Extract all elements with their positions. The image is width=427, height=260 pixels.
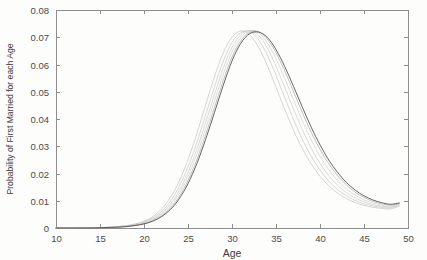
y-axis-tick-labels: 00.010.020.030.040.050.060.070.08	[31, 5, 50, 234]
x-tick-label: 15	[95, 233, 106, 244]
y-tick-label: 0.03	[31, 141, 50, 152]
figure-container: 101520253035404550 00.010.020.030.040.05…	[0, 0, 427, 260]
x-tick-label: 35	[271, 233, 282, 244]
y-tick-label: 0.01	[31, 196, 50, 207]
data-curve	[56, 32, 399, 228]
x-tick-label: 20	[139, 233, 150, 244]
y-tick-label: 0.07	[31, 32, 50, 43]
data-curve	[56, 31, 399, 228]
x-tick-label: 40	[315, 233, 326, 244]
x-tick-label: 45	[359, 233, 370, 244]
x-tick-label: 30	[227, 233, 238, 244]
y-tick-label: 0.04	[31, 114, 50, 125]
y-axis-title: Probability of First Married for each Ag…	[5, 43, 15, 194]
y-tick-label: 0	[44, 223, 49, 234]
data-curve	[56, 30, 399, 228]
y-tick-label: 0.05	[31, 87, 50, 98]
x-tick-label: 10	[51, 233, 62, 244]
x-tick-label: 50	[403, 233, 414, 244]
chart-canvas: 101520253035404550 00.010.020.030.040.05…	[0, 0, 427, 260]
y-tick-label: 0.06	[31, 60, 50, 71]
data-curve	[56, 31, 399, 228]
data-curve	[56, 31, 399, 228]
data-curve	[56, 30, 399, 228]
x-tick-label: 25	[183, 233, 194, 244]
y-axis-ticks	[56, 11, 408, 229]
x-axis-title: Age	[223, 247, 242, 259]
x-axis-tick-labels: 101520253035404550	[51, 233, 414, 244]
y-tick-label: 0.08	[31, 5, 50, 16]
y-tick-label: 0.02	[31, 169, 50, 180]
curve-series-group	[56, 30, 399, 228]
